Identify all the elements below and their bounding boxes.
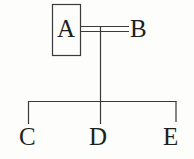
node-label-b: B: [130, 16, 147, 41]
node-label-e: E: [163, 124, 178, 149]
diagram-canvas: A B C D E: [0, 0, 194, 159]
node-label-a: A: [57, 16, 75, 41]
node-label-d: D: [89, 124, 107, 149]
node-label-c: C: [19, 124, 36, 149]
